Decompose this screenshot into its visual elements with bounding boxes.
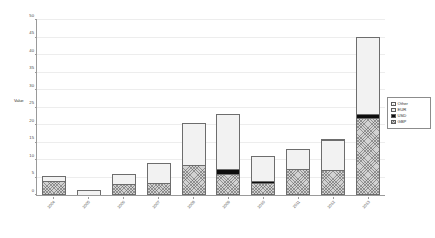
bar-slot	[141, 20, 176, 195]
bar-segment-gbp[interactable]	[321, 170, 345, 195]
x-axis-slot: 2008	[176, 197, 211, 238]
y-axis-tick-label: 0	[32, 189, 34, 193]
x-axis-tick-mark	[123, 197, 124, 199]
chart-legend: OtherEURUSDGBP	[387, 97, 431, 129]
x-axis-tick-label: 2013	[362, 200, 371, 209]
legend-item-eur[interactable]: EUR	[391, 108, 428, 113]
stacked-bar[interactable]	[42, 176, 66, 195]
x-axis-tick-mark	[228, 197, 229, 199]
bar-slot	[211, 20, 246, 195]
legend-swatch-icon	[391, 114, 396, 119]
bar-group	[37, 20, 385, 195]
y-axis-tick-label: 5	[32, 171, 34, 175]
stacked-bar[interactable]	[112, 174, 136, 195]
x-axis-tick-label: 2005	[82, 200, 91, 209]
bar-segment-eur[interactable]	[182, 123, 206, 165]
x-axis-slot: 2004	[36, 197, 71, 238]
plot-area: 05101520253035404550	[36, 20, 385, 196]
stacked-bar[interactable]	[356, 37, 380, 195]
bar-segment-eur[interactable]	[112, 174, 136, 185]
x-axis-tick-label: 2011	[292, 200, 301, 209]
bar-slot	[107, 20, 142, 195]
x-axis-tick-mark	[193, 197, 194, 199]
legend-item-usd[interactable]: USD	[391, 114, 428, 119]
legend-item-gbp[interactable]: GBP	[391, 120, 428, 125]
y-axis-title: Value	[14, 99, 23, 103]
x-axis-tick-label: 2012	[327, 200, 336, 209]
stacked-bar[interactable]	[321, 139, 345, 195]
bar-slot	[37, 20, 72, 195]
x-axis-tick-mark	[88, 197, 89, 199]
x-axis-slot: 2010	[245, 197, 280, 238]
legend-swatch-icon	[391, 102, 396, 107]
x-axis-slot: 2009	[211, 197, 246, 238]
bar-segment-eur[interactable]	[216, 114, 240, 169]
stacked-bar[interactable]	[77, 190, 101, 195]
x-axis-tick-label: 2004	[47, 200, 56, 209]
bar-slot	[350, 20, 385, 195]
bar-slot	[72, 20, 107, 195]
x-axis-slot: 2007	[141, 197, 176, 238]
y-axis-tick-label: 40	[29, 49, 34, 53]
bar-segment-gbp[interactable]	[286, 169, 310, 195]
y-axis-tick-label: 35	[29, 66, 34, 70]
x-axis: 2004200520062007200820092010201120122013	[36, 197, 385, 238]
x-axis-tick-mark	[333, 197, 334, 199]
x-axis-tick-label: 2008	[187, 200, 196, 209]
legend-label: Other	[398, 102, 408, 106]
bar-segment-eur[interactable]	[321, 140, 345, 170]
stacked-bar-chart: Value 05101520253035404550 2004200520062…	[0, 0, 435, 238]
y-axis-tick-label: 25	[29, 101, 34, 105]
bar-segment-eur[interactable]	[77, 190, 101, 195]
stacked-bar[interactable]	[286, 149, 310, 195]
bar-segment-eur[interactable]	[286, 149, 310, 168]
x-axis-tick-mark	[263, 197, 264, 199]
y-axis-tick-label: 20	[29, 119, 34, 123]
y-axis-tick-label: 30	[29, 84, 34, 88]
stacked-bar[interactable]	[216, 114, 240, 195]
bar-slot	[246, 20, 281, 195]
y-axis-tick-label: 50	[29, 14, 34, 18]
stacked-bar[interactable]	[182, 123, 206, 195]
x-axis-tick-label: 2007	[152, 200, 161, 209]
x-axis-slot: 2011	[280, 197, 315, 238]
stacked-bar[interactable]	[147, 163, 171, 195]
bar-slot	[281, 20, 316, 195]
bar-segment-gbp[interactable]	[251, 183, 275, 195]
bar-slot	[315, 20, 350, 195]
y-axis-tick-label: 10	[29, 154, 34, 158]
legend-label: EUR	[398, 108, 407, 112]
x-axis-tick-label: 2006	[117, 200, 126, 209]
bar-segment-gbp[interactable]	[356, 118, 380, 195]
y-axis-tick-label: 45	[29, 31, 34, 35]
bar-segment-eur[interactable]	[356, 37, 380, 114]
bar-slot	[176, 20, 211, 195]
bar-segment-eur[interactable]	[147, 163, 171, 182]
stacked-bar[interactable]	[251, 156, 275, 195]
x-axis-tick-mark	[53, 197, 54, 199]
bar-segment-eur[interactable]	[251, 156, 275, 181]
x-axis-tick-mark	[158, 197, 159, 199]
legend-label: USD	[398, 114, 407, 118]
x-axis-tick-label: 2009	[222, 200, 231, 209]
x-axis-tick-label: 2010	[257, 200, 266, 209]
x-axis-slot: 2013	[350, 197, 385, 238]
bar-segment-gbp[interactable]	[147, 183, 171, 195]
y-axis-tick-label: 15	[29, 136, 34, 140]
legend-swatch-icon	[391, 108, 396, 113]
bar-segment-gbp[interactable]	[42, 181, 66, 195]
legend-swatch-icon	[391, 120, 396, 125]
bar-segment-gbp[interactable]	[112, 184, 136, 195]
x-axis-slot: 2005	[71, 197, 106, 238]
bar-segment-gbp[interactable]	[182, 165, 206, 195]
bar-segment-gbp[interactable]	[216, 174, 240, 195]
x-axis-slot: 2006	[106, 197, 141, 238]
legend-label: GBP	[398, 120, 407, 124]
x-axis-slot: 2012	[315, 197, 350, 238]
legend-item-other[interactable]: Other	[391, 102, 428, 107]
